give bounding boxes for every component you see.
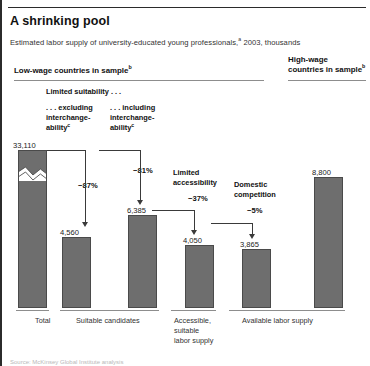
annotation-including-marker: c bbox=[131, 121, 134, 127]
connector-87-arrowhead bbox=[82, 222, 88, 227]
group-rule-high-wage bbox=[288, 80, 366, 81]
annotation-excluding-interchangeability: . . . excluding interchange-abilityc bbox=[46, 103, 102, 132]
connector-37-horizontal bbox=[152, 210, 195, 211]
group-header-low-wage-marker: b bbox=[128, 64, 131, 70]
bar-value-label-accessible: 4,050 bbox=[183, 236, 202, 245]
annotation-including-label: . . . including interchange-ability bbox=[110, 103, 155, 132]
axis-break-icon bbox=[19, 165, 46, 181]
group-header-high-wage-line2: countries in sample bbox=[288, 65, 362, 74]
chart-subtitle: Estimated labor supply of university-edu… bbox=[10, 38, 300, 47]
subtitle-text-tail: 2003, thousands bbox=[241, 38, 300, 47]
connector-5-horizontal bbox=[211, 223, 253, 224]
category-label-accessible-line3: labor supply bbox=[174, 336, 213, 345]
page-title: A shrinking pool bbox=[10, 14, 110, 28]
exhibit-panel: A shrinking pool Estimated labor supply … bbox=[0, 0, 370, 366]
connector-87-horizontal bbox=[45, 150, 86, 151]
annotation-including-interchangeability: . . . including interchange-abilityc bbox=[110, 103, 166, 132]
group-header-high-wage: High-wagecountries in sampleb bbox=[288, 55, 365, 76]
category-label-suitable: Suitable candidates bbox=[76, 316, 140, 326]
group-rule-low-wage bbox=[14, 80, 264, 81]
connector-5-arrowhead bbox=[249, 234, 255, 239]
bar-value-label-total: 33,110 bbox=[13, 141, 36, 150]
connector-81-horizontal bbox=[99, 150, 141, 151]
connector-81-arrowhead bbox=[137, 200, 143, 205]
axis-segment-available bbox=[229, 310, 345, 311]
bar-available-high-wage bbox=[314, 177, 343, 308]
category-label-available: Available labor supply bbox=[242, 316, 313, 326]
connector-37-arrowhead bbox=[191, 230, 197, 235]
group-header-high-wage-line1: High-wage bbox=[288, 55, 328, 64]
bar-value-label-available-low: 3,865 bbox=[240, 240, 259, 249]
top-rule bbox=[8, 7, 366, 8]
category-label-accessible: Accessible,suitablelabor supply bbox=[174, 316, 226, 345]
connector-81-vertical bbox=[140, 150, 141, 202]
connector-37-vertical bbox=[194, 210, 195, 232]
annotation-limited-suitability: Limited suitability . . . bbox=[46, 87, 121, 97]
source-footnote: Source: McKinsey Global Institute analys… bbox=[10, 359, 366, 365]
annotation-excluding-label: . . . excluding interchange-ability bbox=[46, 103, 93, 132]
bar-available-low-wage bbox=[242, 249, 271, 308]
connector-87-vertical bbox=[85, 150, 86, 224]
annotation-domestic-competition: Domestic competition bbox=[234, 180, 294, 200]
subtitle-text: Estimated labor supply of university-edu… bbox=[10, 38, 238, 47]
bar-value-label-excluding: 4,560 bbox=[60, 228, 79, 237]
category-label-total: Total bbox=[35, 316, 50, 326]
change-label-81: −81% bbox=[133, 166, 153, 175]
annotation-limited-accessibility: Limited accessibility bbox=[173, 168, 229, 188]
bar-value-label-including: 6,385 bbox=[127, 206, 146, 215]
group-header-low-wage-label: Low-wage countries in sample bbox=[14, 66, 128, 75]
annotation-excluding-marker: c bbox=[67, 121, 70, 127]
change-label-37: −37% bbox=[188, 194, 208, 203]
bar-accessible-suitable bbox=[185, 245, 214, 308]
group-header-low-wage: Low-wage countries in sampleb bbox=[14, 66, 132, 75]
axis-segment-total bbox=[16, 310, 49, 311]
category-label-accessible-line1: Accessible, bbox=[174, 316, 211, 325]
bar-total bbox=[18, 150, 47, 308]
bar-value-label-available-high: 8,800 bbox=[312, 168, 331, 177]
bar-suitable-including bbox=[128, 215, 157, 308]
axis-segment-accessible bbox=[171, 310, 216, 311]
change-label-5: −5% bbox=[247, 206, 262, 215]
category-label-accessible-line2: suitable bbox=[174, 326, 199, 335]
group-header-high-wage-marker: b bbox=[362, 64, 365, 70]
bar-suitable-excluding bbox=[62, 237, 91, 308]
axis-segment-suitable bbox=[60, 310, 159, 311]
change-label-87: −87% bbox=[78, 181, 98, 190]
